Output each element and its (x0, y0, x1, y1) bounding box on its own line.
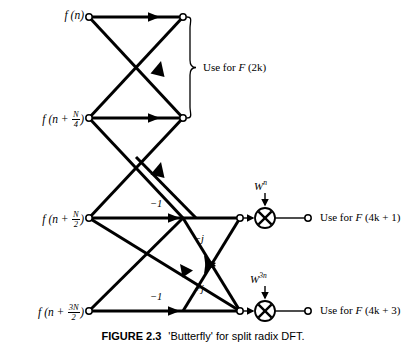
output-label-2k-static: Use for (203, 61, 238, 73)
node-pre-mult-top (237, 215, 243, 221)
node-pre-mult-bottom (237, 308, 243, 314)
fraction-denominator: 2 (68, 313, 80, 322)
output-label-4k3-static: Use for (320, 304, 355, 316)
edge-r1-long-down (136, 157, 196, 218)
multiplier-top (255, 208, 275, 228)
input-label-fn3-tail: ) (80, 306, 84, 318)
output-label-4k1-static: Use for (320, 211, 355, 223)
coefficient-label-minus-one-top: −1 (150, 199, 162, 210)
fraction-N-over-4: N4 (72, 110, 80, 129)
figure-caption-text: 'Butterfly' for split radix DFT. (168, 330, 304, 342)
edge-in3-up-to-r2 (89, 218, 183, 311)
node-term-4k3 (305, 308, 311, 314)
edge-in2-down-to-r3 (89, 218, 240, 311)
output-label-4k3-rest: (4k + 3) (362, 304, 400, 316)
node-input-3 (86, 308, 92, 314)
input-label-f-n-text: f (n) (65, 9, 84, 21)
node-input-0 (86, 14, 92, 20)
graph-nodes (86, 14, 311, 314)
input-label-fn2-lead: f (n + (42, 213, 71, 225)
flowgraph-thin-edges (243, 193, 305, 311)
node-input-2 (86, 215, 92, 221)
coefficient-label-minus-j: −j (194, 234, 204, 245)
output-label-2k-rest: (2k) (245, 61, 266, 73)
brace-2k (187, 17, 196, 118)
figure-number: FIGURE 2.3 (101, 330, 161, 342)
multiplier-bottom (255, 301, 275, 321)
input-label-f-n: f (n) (6, 10, 84, 22)
input-label-fn2-tail: ) (80, 213, 84, 225)
arrow-r0-right (148, 12, 160, 22)
input-label-f-n-plus-N-over-2: f (n + N2) (2, 210, 84, 229)
arrow-diag-up-r0 (151, 61, 165, 77)
output-label-use-for-F-2k: Use for F (2k) (203, 62, 266, 73)
node-input-1 (86, 115, 92, 121)
fraction-denominator: 2 (72, 220, 80, 229)
input-label-fn1-lead: f (n + (42, 113, 71, 125)
node-out-2k-upper (180, 14, 186, 20)
twiddle-base-wn: W (254, 180, 263, 192)
input-label-f-n-plus-N-over-4: f (n + N4) (2, 110, 84, 129)
fraction-N-over-2: N2 (72, 210, 80, 229)
brace-2k-path (187, 17, 196, 118)
coefficient-label-plus-j: +j (194, 284, 204, 295)
output-label-4k1-rest: (4k + 1) (362, 211, 400, 223)
twiddle-label-W-n: Wn (254, 181, 267, 192)
input-label-fn1-tail: ) (80, 113, 84, 125)
twiddle-exponent-w3n: 3n (259, 271, 267, 280)
fraction-3N-over-2: 3N2 (68, 303, 80, 322)
figure-container: f (n) f (n + N4) f (n + N2) f (n + 3N2) … (0, 0, 406, 352)
output-label-use-for-F-4k-plus-1: Use for F (4k + 1) (320, 212, 400, 223)
node-term-4k1 (305, 215, 311, 221)
fraction-denominator: 4 (72, 120, 80, 129)
input-label-fn3-lead: f (n + (38, 306, 67, 318)
twiddle-base-w3n: W (250, 273, 259, 285)
flowgraph-arrowheads (148, 12, 216, 316)
twiddle-exponent-wn: n (263, 178, 267, 187)
arrow-r1-right (148, 113, 160, 123)
butterfly-signal-flow-graph (0, 0, 406, 352)
twiddle-label-W-3n: W3n (250, 274, 267, 285)
coefficient-label-minus-one-bottom: −1 (150, 292, 162, 303)
arrow-r3-right (168, 306, 180, 316)
figure-caption: FIGURE 2.3'Butterfly' for split radix DF… (0, 330, 406, 342)
input-label-f-n-plus-3N-over-2: f (n + 3N2) (0, 303, 84, 322)
node-out-2k-lower (180, 115, 186, 121)
output-label-use-for-F-4k-plus-3: Use for F (4k + 3) (320, 305, 400, 316)
multiplier-nodes (255, 208, 275, 321)
